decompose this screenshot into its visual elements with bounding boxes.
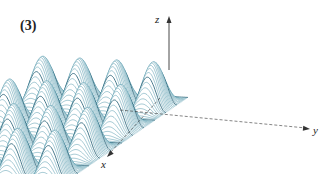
panel-label: (3) (20, 18, 36, 34)
z-axis-label: z (155, 13, 159, 25)
y-axis-label: y (313, 124, 318, 136)
surface-plot (0, 0, 336, 174)
x-axis-label: x (101, 158, 106, 170)
